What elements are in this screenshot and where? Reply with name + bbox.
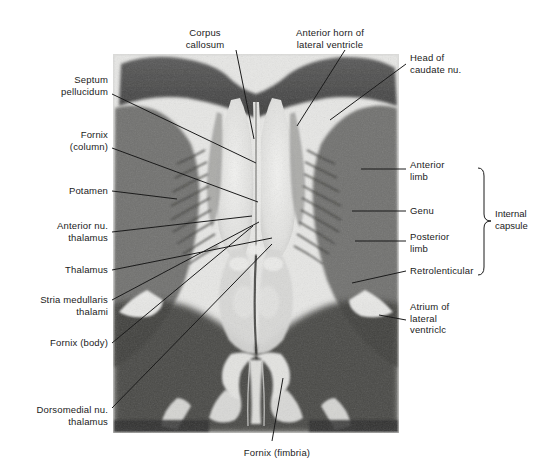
label-fornix-fimbria: Fornix (fimbria) bbox=[212, 447, 342, 459]
label-dorsomedial-nucleus-thalamus: Dorsomedial nu. thalamus bbox=[0, 404, 108, 427]
label-fornix-column: Fornix (column) bbox=[0, 129, 108, 152]
brain-section-photograph bbox=[113, 54, 399, 433]
anatomical-figure: Corpus callosum Anterior horn of lateral… bbox=[0, 0, 553, 469]
label-head-of-caudate-nucleus: Head of caudate nu. bbox=[410, 52, 530, 75]
label-stria-medullaris-thalami: Stria medullaris thalami bbox=[0, 294, 108, 317]
label-internal-capsule: Internal capsule bbox=[495, 208, 553, 231]
label-septum-pellucidum: Septum pellucidum bbox=[0, 74, 108, 97]
label-anterior-nucleus-thalamus: Anterior nu. thalamus bbox=[0, 220, 108, 243]
internal-capsule-bracket bbox=[478, 168, 491, 275]
label-atrium-of-lateral-ventricle: Atrium of lateral ventriclc bbox=[410, 301, 520, 336]
label-retrolenticular: Retrolenticular bbox=[410, 265, 520, 277]
label-fornix-body: Fornix (body) bbox=[0, 337, 108, 349]
label-corpus-callosum: Corpus callosum bbox=[145, 27, 265, 50]
label-anterior-horn-of-lateral-ventricle: Anterior horn of lateral ventricle bbox=[265, 27, 395, 50]
label-putamen: Potamen bbox=[0, 185, 108, 197]
label-posterior-limb: Posterior limb bbox=[410, 231, 520, 254]
label-anterior-limb: Anterior limb bbox=[410, 159, 520, 182]
label-thalamus: Thalamus bbox=[0, 264, 108, 276]
